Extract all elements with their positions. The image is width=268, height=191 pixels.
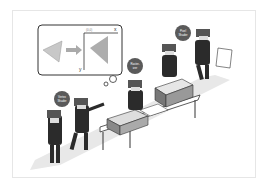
pipeline-illustration: x y (0,0) Vertex Shader [0, 0, 268, 191]
stage-badge-rasterizer: Raster- izer [127, 58, 143, 74]
svg-text:Shader: Shader [57, 99, 66, 103]
svg-text:izer: izer [133, 66, 138, 70]
thought-bubble: x y (0,0) [38, 25, 122, 86]
svg-text:(0,0): (0,0) [86, 28, 92, 32]
paper-icon [216, 48, 232, 68]
worker-4 [162, 44, 177, 77]
svg-text:Shader: Shader [178, 33, 187, 37]
stage-badge-pixel-shader: Pixel Shader [175, 25, 191, 41]
stage-badge-vertex-shader: Vertex Shader [54, 91, 70, 107]
table [100, 79, 200, 150]
worker-5 [195, 29, 210, 80]
worker-3 [128, 80, 143, 110]
